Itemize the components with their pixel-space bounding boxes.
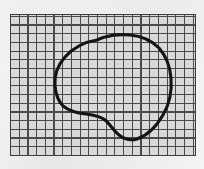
grid-ruling-lines bbox=[10, 14, 196, 156]
graph-paper-grid bbox=[10, 14, 196, 156]
figure-root: Irregular closed curve on graph paper A … bbox=[0, 0, 204, 169]
